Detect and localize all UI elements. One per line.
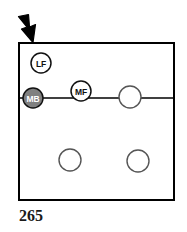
node-unlabeled-right-on-line[interactable] — [119, 86, 141, 108]
node-mb-label: MB — [27, 94, 40, 104]
node-lf[interactable]: LF — [31, 53, 51, 73]
node-unlabeled-bottom-right-circle — [127, 150, 149, 172]
figure-caption: 265 — [19, 207, 43, 224]
node-lf-label: LF — [36, 59, 46, 69]
node-mf[interactable]: MF — [71, 81, 91, 101]
down-right-arrow-icon — [19, 15, 36, 43]
figure-diagram: LF MB MF 265 — [0, 0, 187, 232]
node-mf-label: MF — [75, 87, 87, 97]
node-unlabeled-bottom-right[interactable] — [127, 150, 149, 172]
node-unlabeled-bottom-left-circle — [59, 149, 81, 171]
node-unlabeled-right-on-line-circle — [119, 86, 141, 108]
figure-container: LF MB MF 265 — [0, 0, 187, 232]
node-unlabeled-bottom-left[interactable] — [59, 149, 81, 171]
node-mb[interactable]: MB — [23, 88, 43, 108]
